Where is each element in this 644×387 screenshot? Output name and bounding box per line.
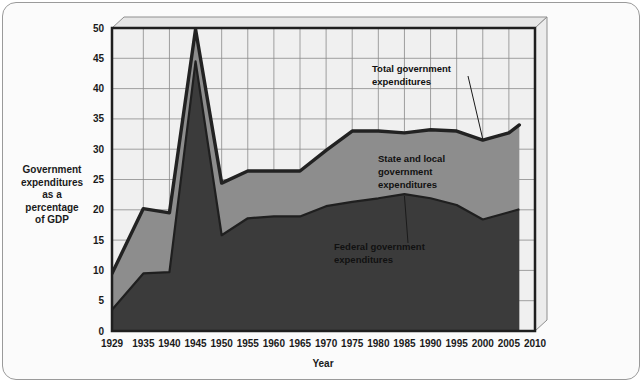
x-tick-label: 2000 xyxy=(472,338,495,349)
annotation-total-line-2: expenditures xyxy=(372,76,431,87)
y-tick-label: 10 xyxy=(93,265,105,276)
y-tick-label: 35 xyxy=(93,113,105,124)
x-tick-label: 1940 xyxy=(158,338,181,349)
annotation-federal-line-1: Federal government xyxy=(334,241,426,252)
x-tick-label: 1929 xyxy=(101,338,124,349)
chart-plot: 05101520253035404550 1929193519401945195… xyxy=(0,0,644,387)
x-tick-label: 1990 xyxy=(419,338,442,349)
plot-bevel-top xyxy=(112,17,547,28)
y-tick-label: 40 xyxy=(93,83,105,94)
annotation-federal-line-2: expenditures xyxy=(334,254,393,265)
y-tick-label: 45 xyxy=(93,53,105,64)
x-tick-label: 1980 xyxy=(367,338,390,349)
x-tick-label: 1960 xyxy=(263,338,286,349)
x-tick-label: 1965 xyxy=(289,338,312,349)
annotation-state-local-line-1: State and local xyxy=(378,153,445,164)
x-axis-tick-labels: 1929193519401945195019551960196519701975… xyxy=(101,338,547,349)
x-tick-label: 1985 xyxy=(393,338,416,349)
x-tick-label: 1935 xyxy=(132,338,155,349)
chart-figure: Government expenditures as a percentage … xyxy=(0,0,644,387)
x-tick-label: 1955 xyxy=(237,338,260,349)
annotation-state-local-line-2: government xyxy=(378,166,433,177)
y-tick-label: 50 xyxy=(93,23,105,34)
plot-bevel-right xyxy=(535,17,547,331)
x-tick-label: 1975 xyxy=(341,338,364,349)
x-tick-label: 2005 xyxy=(498,338,521,349)
y-tick-label: 20 xyxy=(93,204,105,215)
y-tick-label: 15 xyxy=(93,235,105,246)
y-axis-tick-labels: 05101520253035404550 xyxy=(93,23,105,337)
y-tick-label: 0 xyxy=(98,326,104,337)
annotation-state-local-line-3: expenditures xyxy=(378,179,437,190)
x-tick-label: 1945 xyxy=(184,338,207,349)
x-tick-label: 2010 xyxy=(524,338,547,349)
x-axis-title: Year xyxy=(312,358,333,369)
y-tick-label: 25 xyxy=(93,174,105,185)
y-tick-label: 30 xyxy=(93,144,105,155)
y-tick-label: 5 xyxy=(98,295,104,306)
x-tick-label: 1950 xyxy=(211,338,234,349)
annotation-total-line-1: Total government xyxy=(372,63,452,74)
x-tick-label: 1995 xyxy=(446,338,469,349)
x-tick-label: 1970 xyxy=(315,338,338,349)
